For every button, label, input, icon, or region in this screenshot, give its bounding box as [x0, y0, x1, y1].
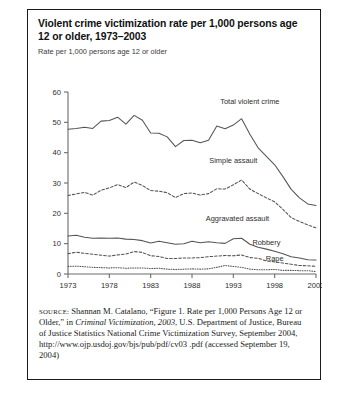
source-note: SOURCE: Shannan M. Catalano, “Figure 1. …	[39, 306, 307, 361]
chart-title: Violent crime victimization rate per 1,0…	[38, 18, 306, 43]
chart-series	[68, 115, 316, 271]
line-chart-svg: 0102030405060197319781983198819931998200…	[28, 82, 322, 297]
y-tick-label: 40	[53, 148, 61, 157]
y-tick-label: 0	[57, 270, 61, 279]
x-tick-label: 1998	[266, 281, 283, 290]
y-tick-label: 50	[53, 118, 61, 127]
chart-annotations: Total violent crimeSimple assaultAggrava…	[206, 97, 284, 263]
series-label-rape: Rape	[266, 254, 284, 263]
y-tick-label: 20	[53, 209, 61, 218]
series-line-total-violent-crime	[68, 115, 316, 205]
x-tick-label: 1973	[60, 281, 77, 290]
y-tick-label: 10	[53, 239, 61, 248]
x-tick-label: 2003	[308, 281, 322, 290]
series-label-simple-assault: Simple assault	[209, 156, 257, 165]
x-tick-label: 1988	[184, 281, 201, 290]
x-tick-label: 1983	[142, 281, 159, 290]
x-tick-label: 1993	[225, 281, 242, 290]
series-line-rape	[68, 266, 316, 272]
series-label-aggravated-assault: Aggravated assault	[206, 214, 269, 223]
source-publication-title: Criminal Victimization, 2003	[75, 317, 175, 327]
chart-subtitle: Rate per 1,000 persons age 12 or older	[38, 47, 308, 56]
series-line-simple-assault	[68, 180, 316, 228]
source-label: SOURCE:	[39, 308, 69, 315]
y-tick-label: 60	[53, 88, 61, 97]
x-tick-label: 1978	[101, 281, 118, 290]
series-label-robbery: Robbery	[252, 238, 280, 247]
series-label-total-violent-crime: Total violent crime	[220, 97, 279, 106]
figure-container: Violent crime victimization rate per 1,0…	[27, 9, 321, 380]
y-tick-label: 30	[53, 179, 61, 188]
plot-area: 0102030405060197319781983198819931998200…	[28, 82, 322, 297]
